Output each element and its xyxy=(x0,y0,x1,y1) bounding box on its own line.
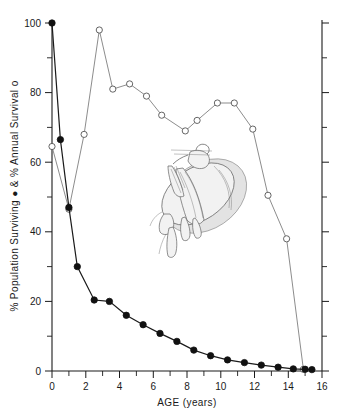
x-tick-label: 2 xyxy=(83,381,89,392)
y-tick-label: 0 xyxy=(35,366,41,377)
x-tick-label: 14 xyxy=(283,381,295,392)
y-tick-labels: 0 20 40 60 80 100 xyxy=(24,18,41,377)
x-tick-label: 12 xyxy=(249,381,261,392)
y-ticks-right xyxy=(322,23,329,371)
x-axis-title: AGE (years) xyxy=(157,397,216,408)
y-axis-title: % Population Surviving ● & % Annual Surv… xyxy=(9,80,20,311)
y-tick-label: 40 xyxy=(30,226,42,237)
x-tick-label: 10 xyxy=(215,381,227,392)
chart-figure: 0 20 40 60 80 100 0 2 4 6 8 10 12 14 xyxy=(0,0,345,418)
x-tick-label: 4 xyxy=(117,381,123,392)
x-tick-label: 0 xyxy=(49,381,55,392)
y-ticks-minor xyxy=(47,58,52,336)
cuttlefish-illustration xyxy=(149,143,261,257)
x-tick-labels: 0 2 4 6 8 10 12 14 16 xyxy=(49,381,328,392)
y-tick-label: 100 xyxy=(24,18,41,29)
x-ticks-major xyxy=(52,371,322,378)
y-tick-label: 80 xyxy=(30,87,42,98)
x-tick-label: 6 xyxy=(151,381,157,392)
x-tick-label: 16 xyxy=(316,381,328,392)
x-tick-label: 8 xyxy=(184,381,190,392)
y-tick-label: 20 xyxy=(30,296,42,307)
y-tick-label: 60 xyxy=(30,157,42,168)
